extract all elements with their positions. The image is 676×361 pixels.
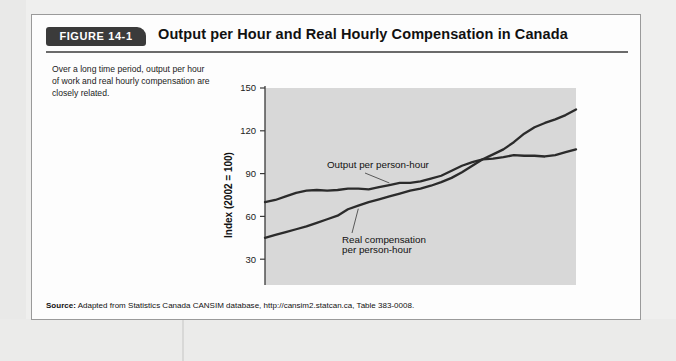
figure-number-badge: FIGURE 14-1 (46, 27, 146, 46)
svg-text:60: 60 (245, 211, 256, 222)
page-gutter-line (182, 318, 184, 361)
source-label: Source: (46, 301, 76, 310)
page-left-band (0, 0, 26, 361)
annotation-output-per-person-hour: Output per person-hour (327, 159, 430, 170)
y-axis-ticks (260, 88, 265, 259)
svg-text:120: 120 (240, 125, 256, 136)
svg-text:30: 30 (245, 254, 256, 265)
plot-background (265, 88, 576, 285)
svg-text:150: 150 (240, 82, 256, 93)
source-text: Adapted from Statistics Canada CANSIM da… (76, 301, 414, 310)
title-divider (46, 51, 628, 53)
svg-text:90: 90 (245, 168, 256, 179)
y-axis-tick-labels: 306090120150 (240, 82, 256, 264)
line-chart: 306090120150 198119851990199520002005201… (32, 55, 642, 285)
chart-area: 306090120150 198119851990199520002005201… (32, 55, 642, 285)
figure-box: FIGURE 14-1 Output per Hour and Real Hou… (31, 14, 641, 320)
figure-header: FIGURE 14-1 Output per Hour and Real Hou… (32, 15, 640, 51)
figure-title: Output per Hour and Real Hourly Compensa… (158, 26, 568, 42)
y-axis-title: Index (2002 = 100) (223, 152, 234, 238)
figure-source: Source: Adapted from Statistics Canada C… (46, 301, 414, 310)
page-bottom-band (0, 319, 676, 361)
annotation-real-compensation-line2: per person-hour (342, 244, 412, 255)
